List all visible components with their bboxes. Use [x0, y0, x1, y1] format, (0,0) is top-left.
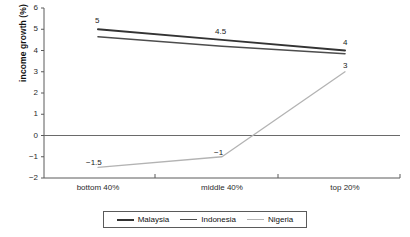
legend-item-malaysia[interactable]: Malaysia: [117, 215, 170, 224]
y-tick-label: 2: [18, 88, 38, 97]
x-tick-label: top 20%: [305, 183, 385, 192]
data-point-label: 4: [343, 38, 347, 47]
legend-label: Nigeria: [268, 215, 293, 224]
data-point-label: −1: [214, 148, 223, 157]
legend-swatch-icon: [247, 219, 264, 220]
x-tick-label: bottom 40%: [58, 183, 138, 192]
y-tick-label: 1: [18, 109, 38, 118]
legend-item-nigeria[interactable]: Nigeria: [247, 215, 293, 224]
series-group: [98, 29, 345, 167]
legend-swatch-icon: [117, 219, 134, 221]
chart-container: income growth (%) 6543210−1−2 bottom 40%…: [0, 0, 410, 237]
data-point-label: 3: [343, 61, 347, 70]
data-point-label: 5: [95, 16, 99, 25]
y-tick-label: 6: [18, 3, 38, 12]
y-tick-label: 5: [18, 24, 38, 33]
y-tick-label: −2: [18, 173, 38, 182]
y-tick-label: 4: [18, 46, 38, 55]
chart-legend: MalaysiaIndonesiaNigeria: [103, 211, 307, 228]
x-tick-label: middle 40%: [182, 183, 262, 192]
legend-label: Indonesia: [201, 215, 236, 224]
data-point-label: 4.5: [215, 27, 226, 36]
y-tick-label: −1: [18, 152, 38, 161]
legend-swatch-icon: [180, 219, 197, 220]
y-tick-label: 0: [18, 131, 38, 140]
legend-label: Malaysia: [138, 215, 170, 224]
legend-item-indonesia[interactable]: Indonesia: [180, 215, 236, 224]
chart-canvas: [0, 0, 410, 237]
y-tick-label: 3: [18, 67, 38, 76]
data-point-label: −1.5: [86, 158, 102, 167]
